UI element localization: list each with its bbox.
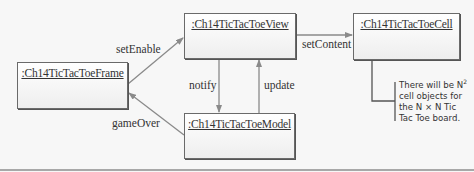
note-text: There will be N2 cell objects for the N … (399, 80, 467, 124)
object-cell-label: :Ch14TicTacToeCell (354, 18, 459, 30)
object-frame: :Ch14TicTacToeFrame (17, 62, 128, 109)
object-view: :Ch14TicTacToeView (184, 13, 296, 59)
object-frame-label: :Ch14TicTacToeFrame (18, 67, 127, 79)
note-line-3: the N × N Tic (399, 102, 467, 113)
object-view-label: :Ch14TicTacToeView (185, 18, 295, 30)
object-model: :Ch14TicTacToeModel (184, 113, 295, 159)
message-update: update (264, 79, 295, 91)
object-cell: :Ch14TicTacToeCell (353, 13, 460, 60)
note-line-4: Tac Toe board. (399, 113, 467, 124)
communication-diagram: :Ch14TicTacToeFrame :Ch14TicTacToeView :… (0, 0, 474, 172)
note-connector (372, 60, 395, 101)
note-line-1: There will be N2 (399, 80, 467, 91)
note-line-2: cell objects for (399, 91, 467, 102)
message-notify: notify (189, 79, 216, 91)
message-setcontent: setContent (302, 38, 351, 50)
message-setenable: setEnable (116, 43, 161, 55)
object-model-label: :Ch14TicTacToeModel (185, 118, 294, 130)
message-gameover: gameOver (112, 117, 160, 129)
bottom-divider (0, 169, 474, 171)
